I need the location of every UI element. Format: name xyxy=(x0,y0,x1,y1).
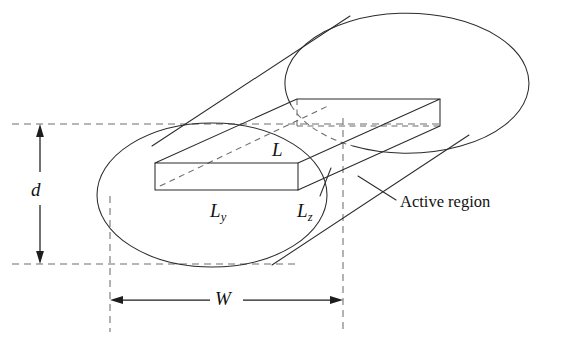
slab-label-Lz-base: L xyxy=(297,200,308,221)
slab-label-Ly-subscript: y xyxy=(221,210,227,224)
dimension-label-d: d xyxy=(31,180,41,199)
cylinder-tangent-lines xyxy=(152,16,469,265)
slab-label-L: L xyxy=(272,140,283,159)
active-region-callout xyxy=(358,176,396,200)
near-ellipse-group xyxy=(97,123,327,267)
active-region-slab xyxy=(155,99,440,190)
active-region-leader-line xyxy=(358,176,396,200)
slab-label-Ly-base: L xyxy=(210,200,221,221)
slab-right-face xyxy=(298,99,440,190)
dimension-w-arrowhead-left xyxy=(110,296,123,304)
slab-front-face xyxy=(155,163,298,190)
dimension-d-arrowhead-top xyxy=(36,124,44,137)
active-region-label: Active region xyxy=(400,194,490,211)
near-ellipse xyxy=(97,123,327,267)
slab-hidden-diagonal xyxy=(160,105,330,186)
dimension-d-arrowhead-bottom xyxy=(36,251,44,264)
diagram-canvas xyxy=(0,0,564,347)
slab-label-Lz-subscript: z xyxy=(308,210,313,224)
dimension-w-arrowhead-right xyxy=(330,296,343,304)
slab-label-Ly: Ly xyxy=(210,201,226,223)
slab-label-Lz: Lz xyxy=(297,201,313,223)
dimension-label-w: W xyxy=(215,289,231,308)
figure-container: d W L Ly Lz Active region xyxy=(0,0,564,347)
